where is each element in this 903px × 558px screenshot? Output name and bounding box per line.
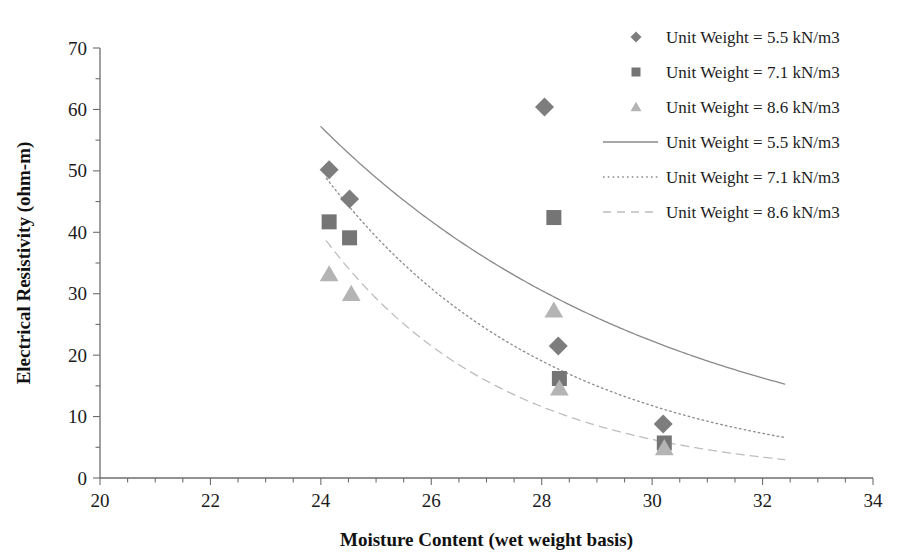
x-axis-tick-label: 20 xyxy=(91,490,110,511)
x-axis-tick-label: 32 xyxy=(753,490,772,511)
x-axis-tick-label: 24 xyxy=(311,490,331,511)
x-axis-tick-label: 30 xyxy=(643,490,662,511)
y-axis-tick-label: 10 xyxy=(68,406,87,427)
x-axis-tick-label: 22 xyxy=(201,490,220,511)
x-axis-tick-label: 26 xyxy=(422,490,441,511)
data-point-square-2 xyxy=(342,230,357,245)
y-axis-title: Electrical Resistivity (ohm-m) xyxy=(13,142,35,385)
y-axis-tick-label: 70 xyxy=(68,38,87,59)
chart-background xyxy=(0,0,903,558)
legend-marker-square-icon xyxy=(632,68,641,77)
data-point-square-1 xyxy=(322,214,337,229)
data-point-square-3 xyxy=(546,210,561,225)
x-axis-tick-label: 28 xyxy=(532,490,551,511)
y-axis-tick-label: 50 xyxy=(68,160,87,181)
legend-entry-label: Unit Weight = 5.5 kN/m3 xyxy=(666,133,840,152)
legend-entry-label: Unit Weight = 8.6 kN/m3 xyxy=(666,98,840,117)
y-axis-tick-label: 30 xyxy=(68,283,87,304)
legend-entry-label: Unit Weight = 7.1 kN/m3 xyxy=(666,63,840,82)
y-axis-tick-label: 40 xyxy=(68,222,87,243)
chart-figure: 0102030405060702022242628303234 Moisture… xyxy=(0,0,903,558)
y-axis-tick-label: 0 xyxy=(78,468,88,489)
y-axis-tick-label: 60 xyxy=(68,99,87,120)
legend-entry-label: Unit Weight = 8.6 kN/m3 xyxy=(666,203,840,222)
x-axis-title: Moisture Content (wet weight basis) xyxy=(340,529,633,551)
legend-entry-label: Unit Weight = 5.5 kN/m3 xyxy=(666,28,840,47)
legend-entry-label: Unit Weight = 7.1 kN/m3 xyxy=(666,168,840,187)
electrical-resistivity-vs-moisture-chart: 0102030405060702022242628303234 Moisture… xyxy=(0,0,903,558)
y-axis-tick-label: 20 xyxy=(68,345,87,366)
x-axis-tick-label: 34 xyxy=(864,490,884,511)
